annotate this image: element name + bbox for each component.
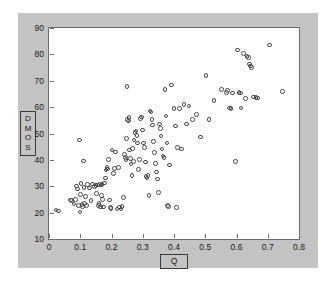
scatter-point <box>156 190 161 195</box>
scatter-point <box>81 159 86 164</box>
scatter-point <box>83 194 88 199</box>
scatter-point <box>131 159 136 164</box>
scatter-point <box>94 191 99 196</box>
scatter-point <box>194 112 199 117</box>
scatter-point <box>169 83 174 88</box>
scatter-point <box>142 145 147 150</box>
scatter-point <box>246 55 251 60</box>
scatter-point <box>101 205 106 210</box>
scatter-point <box>87 186 92 191</box>
scatter-point <box>158 126 163 131</box>
scatter-point <box>113 150 118 155</box>
y-tick-label: 60 <box>35 103 44 112</box>
scatter-point <box>164 114 169 119</box>
scatter-point <box>130 173 135 178</box>
scatter-points-layer <box>49 28 299 239</box>
scatter-point <box>219 87 224 92</box>
scatter-point <box>150 123 155 128</box>
y-axis-label-letter-o: O <box>21 133 35 143</box>
y-tick-label: 30 <box>35 182 44 191</box>
scatter-point <box>137 157 142 162</box>
scatter-point <box>136 167 141 172</box>
scatter-point <box>207 117 212 122</box>
scatter-point <box>143 160 148 165</box>
scatter-point <box>280 89 285 94</box>
scatter-point <box>162 155 167 160</box>
y-tick-label: 40 <box>35 156 44 165</box>
scatter-point <box>111 171 116 176</box>
scatter-point <box>139 115 144 120</box>
scatter-point <box>225 88 230 93</box>
y-tick-label: 20 <box>35 208 44 217</box>
scatter-point <box>73 197 78 202</box>
scatter-point <box>140 128 145 133</box>
scatter-point <box>174 205 179 210</box>
scatter-point <box>152 150 157 155</box>
scatter-point <box>109 206 114 211</box>
x-tick-label: 0.4 <box>168 243 180 252</box>
scatter-point <box>212 98 217 103</box>
scatter-point <box>116 165 121 170</box>
scatter-point <box>56 209 61 214</box>
scatter-point <box>182 102 187 107</box>
scatter-point <box>167 163 172 168</box>
scatter-point <box>150 117 155 122</box>
x-tick-mark <box>299 234 300 238</box>
scatter-point <box>235 48 240 53</box>
scatter-point <box>147 193 152 198</box>
x-tick-label: 0.3 <box>137 243 149 252</box>
scatter-point <box>173 124 178 129</box>
scatter-point <box>89 198 94 203</box>
scatter-point <box>230 91 235 96</box>
scatter-point <box>249 65 254 70</box>
scatter-point <box>184 122 189 127</box>
scatter-point <box>107 198 112 203</box>
scatter-point <box>179 147 184 152</box>
scatter-point <box>160 147 165 152</box>
scatter-point <box>172 106 177 111</box>
scatter-point <box>190 117 195 122</box>
scatter-point <box>121 195 126 200</box>
y-tick-label: 70 <box>35 77 44 86</box>
scatter-point <box>125 84 130 89</box>
scatter-point <box>124 136 129 141</box>
scatter-point <box>151 139 156 144</box>
scatter-point <box>84 203 89 208</box>
x-tick-label: 0.8 <box>293 243 305 252</box>
scatter-point <box>233 159 238 164</box>
y-axis-label-letter-s: S <box>21 143 35 153</box>
scatter-point <box>153 161 158 166</box>
scatter-plot-axes: 102030405060708090 00.10.20.30.40.50.60.… <box>48 27 300 240</box>
scatter-point <box>159 134 164 139</box>
scatter-point <box>155 177 160 182</box>
scatter-point <box>166 204 171 209</box>
scatter-point <box>103 176 108 181</box>
scatter-point <box>243 96 248 101</box>
scatter-point <box>130 146 135 151</box>
scatter-point <box>77 138 82 143</box>
x-axis-label: Q <box>160 254 188 269</box>
scatter-point <box>102 181 107 186</box>
scatter-point <box>163 87 168 92</box>
y-tick-label: 50 <box>35 129 44 138</box>
x-tick-label: 0.5 <box>199 243 211 252</box>
scatter-point <box>198 135 203 140</box>
scatter-point <box>149 110 154 115</box>
scatter-point <box>204 73 209 78</box>
x-tick-label: 0.1 <box>74 243 86 252</box>
scatter-point <box>105 167 110 172</box>
y-tick-label: 90 <box>35 24 44 33</box>
x-axis-label-text: Q <box>171 256 178 266</box>
scatter-point <box>106 157 111 162</box>
y-axis-label-letter-m: M <box>21 124 35 134</box>
scatter-point <box>238 91 243 96</box>
scatter-point <box>135 141 140 146</box>
scatter-point <box>239 106 244 111</box>
x-tick-label: 0 <box>47 243 52 252</box>
x-tick-label: 0.7 <box>262 243 274 252</box>
scatter-point <box>229 106 234 111</box>
x-tick-label: 0.6 <box>231 243 243 252</box>
y-axis-label-letter-d: D <box>21 114 35 124</box>
y-tick-label: 10 <box>35 235 44 244</box>
scatter-point <box>120 204 125 209</box>
